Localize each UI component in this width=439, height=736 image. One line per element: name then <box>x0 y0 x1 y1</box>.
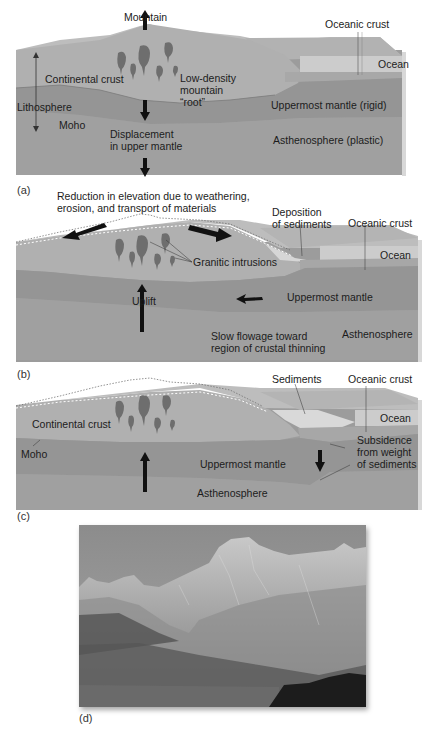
label-uppermost-mantle: Uppermost mantle <box>287 291 373 303</box>
label-lithosphere: Lithosphere <box>17 101 72 113</box>
label-continental-crust: Continental crust <box>32 418 111 430</box>
label-deposition: Deposition of sediments <box>272 206 332 230</box>
label-ocean: Ocean <box>380 412 411 424</box>
label-asthenosphere: Asthenosphere <box>342 328 413 340</box>
label-subsidence: Subsidence from weight of sediments <box>357 434 417 470</box>
label-uppermost-mantle: Uppermost mantle (rigid) <box>271 99 387 111</box>
label-flowage: Slow flowage toward region of crustal th… <box>211 330 325 354</box>
label-ocean: Ocean <box>378 58 409 70</box>
label-uplift: Uplift <box>132 295 156 307</box>
label-oceanic-crust: Oceanic crust <box>348 217 412 229</box>
label-mountain: Mountain <box>124 11 167 23</box>
panel-label-d: (d) <box>79 712 92 724</box>
label-oceanic-crust: Oceanic crust <box>348 373 412 385</box>
panel-c: Sediments Oceanic crust Ocean Continenta… <box>0 370 439 515</box>
label-moho: Moho <box>21 448 47 460</box>
label-reduction: Reduction in elevation due to weathering… <box>57 190 250 214</box>
label-asthenosphere: Asthenosphere <box>197 487 268 499</box>
label-continental-crust: Continental crust <box>45 73 124 85</box>
label-uppermost-mantle: Uppermost mantle <box>200 458 286 470</box>
panel-a: Mountain Oceanic crust Ocean Continental… <box>0 0 439 185</box>
mountain-photo <box>79 525 366 707</box>
label-asthenosphere: Asthenosphere (plastic) <box>273 134 383 146</box>
label-root: Low-density mountain “root” <box>180 72 236 108</box>
label-displacement: Displacement in upper mantle <box>110 128 182 152</box>
label-ocean: Ocean <box>380 249 411 261</box>
panel-b: Reduction in elevation due to weathering… <box>0 180 439 365</box>
panel-label-c: (c) <box>17 510 30 522</box>
label-granitic: Granitic intrusions <box>193 256 277 268</box>
label-sediments: Sediments <box>272 373 322 385</box>
label-oceanic-crust: Oceanic crust <box>325 18 389 30</box>
label-moho: Moho <box>59 119 85 131</box>
